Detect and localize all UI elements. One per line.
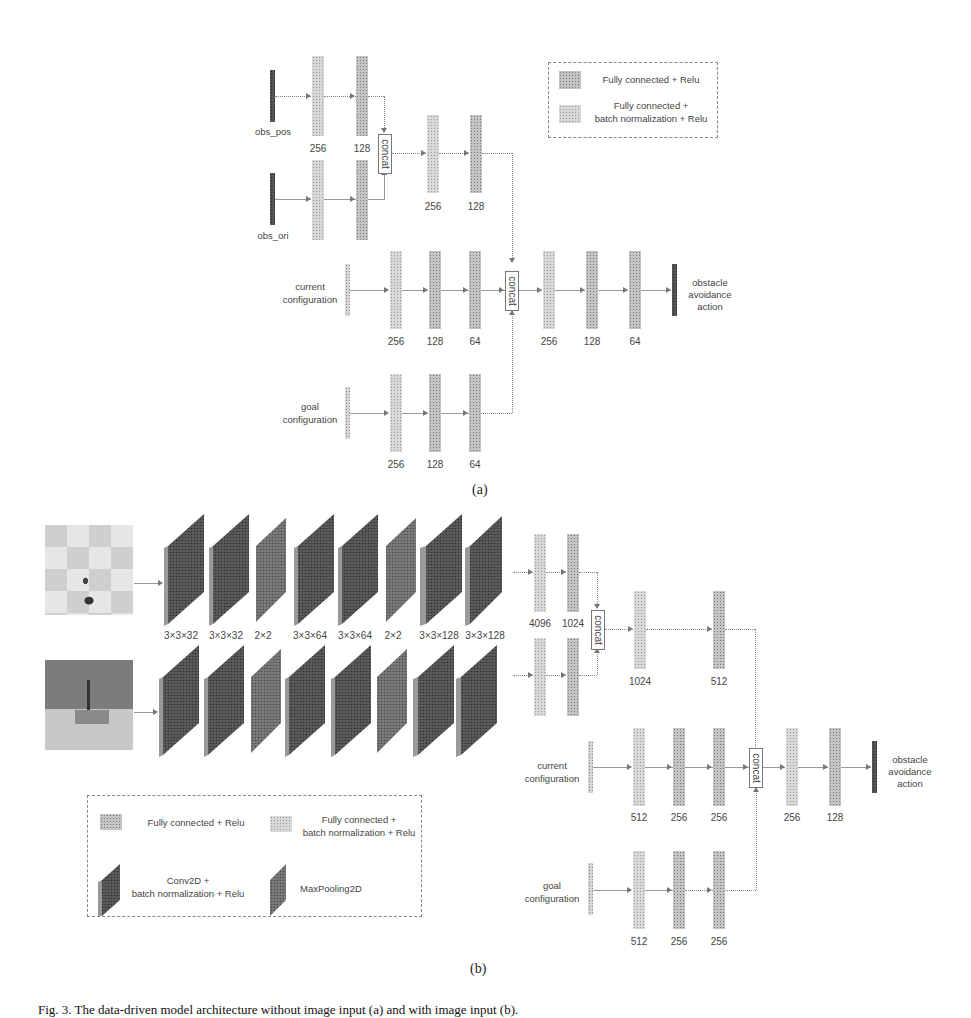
label-output-b-3: action <box>882 778 938 790</box>
edge <box>593 767 631 768</box>
label-output-b-2: avoidance <box>882 766 938 778</box>
units-label: 256 <box>376 459 416 470</box>
concat-label: concat <box>380 139 391 168</box>
arrow-icon <box>350 196 355 202</box>
edge <box>368 199 384 200</box>
fc-layer-current-128 <box>429 251 441 329</box>
label-output-a-1: obstacle <box>682 277 738 289</box>
conv-layer-label: 3×3×32 <box>157 630 205 641</box>
edge <box>755 629 756 751</box>
arrow-icon <box>384 410 389 416</box>
arrow-icon <box>463 410 468 416</box>
maxpool-block <box>251 649 281 753</box>
arrow-icon <box>707 887 712 893</box>
maxpool-block <box>377 649 407 753</box>
conv-block <box>456 645 497 757</box>
arrow-icon <box>561 672 566 678</box>
legend-label-fc-bn-relu-1: Fully connected + <box>298 813 420 826</box>
concat-label: concat <box>507 276 518 305</box>
label-output-a-2: avoidance <box>682 289 738 301</box>
conv-stack-top <box>160 512 505 630</box>
edge <box>579 675 597 676</box>
edge <box>725 890 756 891</box>
fc-layer-current-b-512 <box>633 728 645 806</box>
units-label: 64 <box>455 459 495 470</box>
arrow-icon <box>499 287 504 293</box>
conv-block <box>164 514 204 626</box>
fc-layer-goal-64 <box>469 374 481 452</box>
units-label: 1024 <box>553 618 593 629</box>
edge <box>597 572 598 606</box>
edge <box>481 413 512 414</box>
concat-node-main-a: concat <box>505 271 519 311</box>
units-label: 128 <box>415 459 455 470</box>
conv-block <box>209 514 249 626</box>
edge <box>646 629 712 630</box>
edge <box>593 890 631 891</box>
fc-layer-head-b-128 <box>829 728 841 806</box>
conv-stack-bottom <box>155 643 500 761</box>
concat-label: concat <box>751 753 762 782</box>
units-label: 64 <box>615 336 655 347</box>
arrow-icon <box>666 287 671 293</box>
fc-layer-head-64 <box>629 251 641 329</box>
arrow-icon <box>528 672 533 678</box>
arrow-icon <box>627 887 632 893</box>
conv-layer-label: 3×3×64 <box>286 630 334 641</box>
arrow-icon <box>667 887 672 893</box>
concat-node-obs: concat <box>378 134 392 174</box>
concat-label: concat <box>593 615 604 644</box>
edge <box>756 788 757 890</box>
units-label: 256 <box>413 201 453 212</box>
fc-layer-goal-256 <box>390 374 402 452</box>
units-label: 256 <box>659 936 699 947</box>
units-label: 64 <box>455 336 495 347</box>
arrow-icon <box>528 569 533 575</box>
units-label: 128 <box>815 812 855 823</box>
legend-label-maxpool: MaxPooling2D <box>300 882 370 895</box>
units-label: 128 <box>415 336 455 347</box>
edge <box>579 572 597 573</box>
arrow-icon <box>561 569 566 575</box>
fc-layer-goal-128 <box>429 374 441 452</box>
arrow-icon <box>306 196 311 202</box>
fc-layer-image2-1024 <box>567 638 579 716</box>
fc-layer-current-64 <box>469 251 481 329</box>
legend-label-fc-bn-relu-2: batch normalization + Relu <box>298 826 420 839</box>
fc-layer-head-128 <box>586 251 598 329</box>
legend-label-conv-2: batch normalization + Relu <box>128 887 248 900</box>
output-obstacle-action-a <box>672 264 677 316</box>
conv-block <box>204 645 244 757</box>
fc-layer-image-1024 <box>567 534 579 612</box>
fc-layer-obs-ori-256 <box>312 160 324 240</box>
arrow-icon <box>707 764 712 770</box>
arrow-icon <box>866 764 871 770</box>
conv-block <box>413 645 454 757</box>
edge <box>384 172 385 200</box>
fc-layer-current-256 <box>390 251 402 329</box>
concat-node-main-b: concat <box>749 748 763 788</box>
fc-layer-current-b-256 <box>673 728 685 806</box>
fc-layer-goal-b-512 <box>633 851 645 929</box>
label-goal-config-a-1: goal <box>280 401 340 413</box>
figure-caption: Fig. 3. The data-driven model architectu… <box>38 1002 518 1018</box>
units-label: 512 <box>619 936 659 947</box>
label-current-config-b-2: configuration <box>522 773 582 785</box>
conv-layer-label: 2×2 <box>373 630 413 641</box>
edge <box>597 650 598 675</box>
conv-block <box>331 645 371 757</box>
input-image-top-view <box>45 525 133 615</box>
legend-swatch-fc-relu <box>559 71 581 89</box>
fc-layer-head-b-256 <box>786 728 798 806</box>
edge <box>350 290 388 291</box>
edge <box>512 311 513 413</box>
label-current-config-a-1: current <box>280 281 340 293</box>
arrow-icon <box>421 150 426 156</box>
arrow-icon <box>743 764 748 770</box>
edge <box>512 153 513 260</box>
legend-label-fc-bn-relu-2: batch normalization + Relu <box>587 112 715 125</box>
fc-layer-obs-merged-256 <box>427 115 439 193</box>
arrow-icon <box>667 764 672 770</box>
units-label: 256 <box>298 143 338 154</box>
legend-label-fc-relu: Fully connected + Relu <box>136 816 256 829</box>
